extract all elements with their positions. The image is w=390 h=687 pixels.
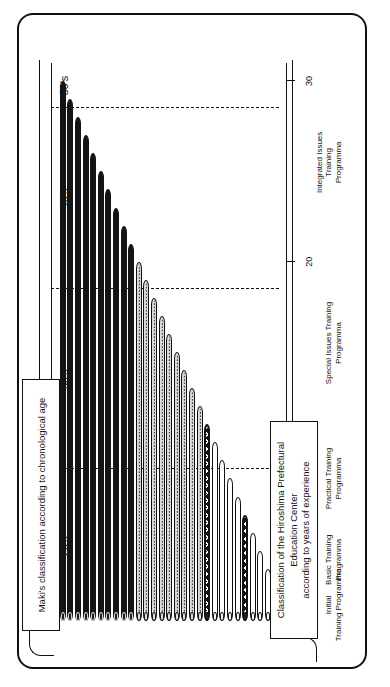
bar	[159, 316, 165, 621]
bar	[219, 460, 225, 621]
age-callout-leader-elbow	[29, 629, 54, 656]
bar	[212, 442, 218, 621]
category-label: Practical Training Programma	[324, 432, 343, 524]
figure-page: 15102030 20's30's40's50's Initial Traini…	[0, 0, 390, 687]
axis-tick	[287, 80, 295, 81]
experience-callout-leader-elbow	[292, 637, 317, 662]
category-label: Basic Training Programma	[324, 514, 343, 606]
age-separator-line	[51, 107, 279, 108]
bar	[227, 479, 233, 622]
bar	[67, 99, 73, 621]
bar	[235, 497, 241, 622]
bar	[136, 262, 142, 621]
category-label: Special Issues Training Programma	[324, 297, 343, 389]
bar	[242, 515, 248, 622]
age-classification-label: Maki's classification according to chron…	[36, 382, 47, 628]
bar	[113, 208, 119, 622]
bar	[189, 388, 195, 621]
axis-tick-label: 30	[305, 76, 314, 86]
bar	[98, 171, 104, 621]
bar	[250, 533, 256, 622]
bar	[128, 244, 134, 622]
bar	[174, 352, 180, 621]
axis-tick	[287, 261, 295, 262]
age-classification-callout: Maki's classification according to chron…	[22, 379, 60, 631]
bar	[204, 424, 210, 621]
bar	[90, 153, 96, 621]
age-callout-leader	[39, 60, 40, 380]
experience-callout-leader	[292, 60, 293, 422]
bar	[197, 406, 203, 621]
bar	[151, 298, 157, 621]
bar	[60, 81, 66, 621]
bar	[83, 135, 89, 621]
bar	[257, 551, 263, 621]
experience-classification-callout: Classification of the Hiroshima Prefectu…	[270, 421, 318, 639]
axis-tick-label: 20	[305, 257, 314, 267]
bar	[166, 334, 172, 621]
experience-classification-label: Classification of the Hiroshima Prefectu…	[275, 424, 313, 636]
bar	[143, 280, 149, 621]
bar	[181, 370, 187, 621]
bar	[75, 117, 81, 621]
bar	[105, 189, 111, 621]
category-label: Integrated Issues Training Programma	[315, 116, 344, 208]
bar	[121, 226, 127, 622]
